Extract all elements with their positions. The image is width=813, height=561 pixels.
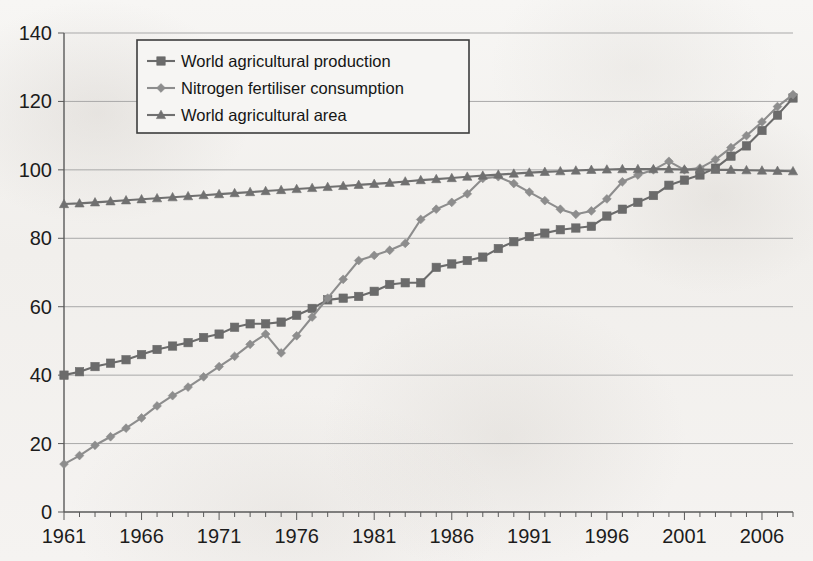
data-point-marker-square xyxy=(277,318,285,326)
y-axis-tick-label: 0 xyxy=(41,501,52,523)
data-point-marker-square xyxy=(168,342,176,350)
data-point-marker-square xyxy=(215,330,223,338)
data-point-marker-square xyxy=(510,238,518,246)
x-axis-tick-label: 1986 xyxy=(430,525,475,547)
data-point-marker-square xyxy=(261,320,269,328)
data-series xyxy=(60,90,798,468)
data-point-marker-square xyxy=(727,152,735,160)
data-point-marker-square xyxy=(479,253,487,261)
data-point-marker-square xyxy=(157,57,165,65)
data-point-marker-square xyxy=(463,256,471,264)
legend-item-label: World agricultural area xyxy=(181,106,348,124)
y-axis-tick-marks xyxy=(58,33,64,512)
data-point-marker-square xyxy=(773,111,781,119)
data-point-marker-diamond xyxy=(556,205,565,214)
y-axis-tick-label: 140 xyxy=(19,22,52,44)
x-axis-tick-label: 2006 xyxy=(740,525,785,547)
data-point-marker-square xyxy=(572,224,580,232)
legend-item[interactable]: Nitrogen fertiliser consumption xyxy=(147,79,404,97)
data-point-marker-square xyxy=(680,176,688,184)
x-axis-tick-label: 1991 xyxy=(507,525,552,547)
x-axis-tick-label: 1976 xyxy=(274,525,319,547)
y-axis-tick-label: 80 xyxy=(30,227,52,249)
data-point-marker-square xyxy=(556,226,564,234)
data-point-marker-square xyxy=(665,181,673,189)
data-point-marker-square xyxy=(525,232,533,240)
x-axis-tick-label: 1981 xyxy=(352,525,397,547)
data-point-marker-square xyxy=(448,260,456,268)
data-point-marker-square xyxy=(634,198,642,206)
y-axis-tick-label: 100 xyxy=(19,159,52,181)
data-point-marker-square xyxy=(758,126,766,134)
data-point-marker-square xyxy=(106,359,114,367)
y-axis-tick-labels: 020406080100120140 xyxy=(19,22,52,523)
data-point-marker-square xyxy=(122,356,130,364)
data-point-marker-diamond xyxy=(525,188,534,197)
data-series xyxy=(60,94,797,380)
data-point-marker-diamond xyxy=(540,196,549,205)
chart-container: 020406080100120140 196119661971197619811… xyxy=(0,0,813,561)
x-axis-tick-marks xyxy=(64,512,793,520)
data-point-marker-square xyxy=(292,311,300,319)
data-point-marker-square xyxy=(618,205,626,213)
x-axis-tick-labels: 1961196619711976198119861991199620012006 xyxy=(42,525,784,547)
legend-item-label: Nitrogen fertiliser consumption xyxy=(181,79,404,97)
data-series xyxy=(59,164,797,207)
data-point-marker-square xyxy=(153,345,161,353)
y-axis-tick-label: 20 xyxy=(30,433,52,455)
data-point-marker-square xyxy=(246,320,254,328)
x-axis-tick-label: 1961 xyxy=(42,525,87,547)
data-point-marker-square xyxy=(386,280,394,288)
data-point-marker-diamond xyxy=(370,251,379,260)
y-axis-tick-label: 120 xyxy=(19,90,52,112)
x-axis-tick-label: 2001 xyxy=(662,525,707,547)
x-axis-tick-label: 1971 xyxy=(197,525,242,547)
legend-item[interactable]: World agricultural production xyxy=(147,52,391,70)
data-point-marker-diamond xyxy=(60,460,69,469)
data-point-marker-square xyxy=(494,244,502,252)
data-series-layer xyxy=(59,90,797,468)
data-point-marker-square xyxy=(587,222,595,230)
chart-legend: World agricultural productionNitrogen fe… xyxy=(137,40,469,133)
data-point-marker-diamond xyxy=(571,210,580,219)
data-point-marker-square xyxy=(432,263,440,271)
data-point-marker-square xyxy=(308,304,316,312)
y-axis-tick-label: 60 xyxy=(30,296,52,318)
line-chart: 020406080100120140 196119661971197619811… xyxy=(0,0,813,561)
legend-item-label: World agricultural production xyxy=(181,52,391,70)
data-point-marker-square xyxy=(199,333,207,341)
x-axis-tick-label: 1966 xyxy=(119,525,164,547)
x-axis-tick-label: 1996 xyxy=(585,525,630,547)
data-point-marker-square xyxy=(137,350,145,358)
data-point-marker-diamond xyxy=(509,179,518,188)
data-point-marker-square xyxy=(230,323,238,331)
series-line xyxy=(64,98,793,375)
data-point-marker-square xyxy=(355,292,363,300)
data-point-marker-diamond xyxy=(385,246,394,255)
data-point-marker-square xyxy=(541,229,549,237)
y-axis-tick-label: 40 xyxy=(30,364,52,386)
data-point-marker-square xyxy=(75,368,83,376)
data-point-marker-diamond xyxy=(447,198,456,207)
data-point-marker-square xyxy=(91,362,99,370)
data-point-marker-square xyxy=(603,212,611,220)
data-point-marker-square xyxy=(401,279,409,287)
data-point-marker-square xyxy=(370,287,378,295)
data-point-marker-square xyxy=(60,371,68,379)
data-point-marker-square xyxy=(742,142,750,150)
data-point-marker-square xyxy=(417,279,425,287)
data-point-marker-square xyxy=(339,294,347,302)
series-line xyxy=(64,95,793,465)
data-point-marker-square xyxy=(184,338,192,346)
data-point-marker-diamond xyxy=(106,432,115,441)
data-point-marker-square xyxy=(649,191,657,199)
